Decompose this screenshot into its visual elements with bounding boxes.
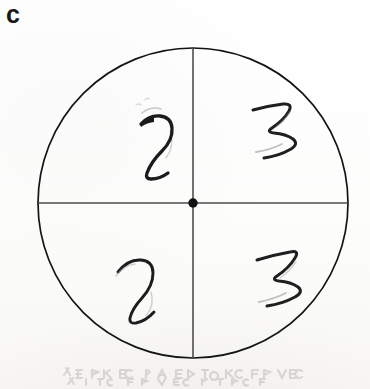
- mark-upper-left: [136, 98, 172, 179]
- figure-panel-c: c: [0, 0, 370, 389]
- center-dot: [188, 198, 197, 207]
- mark-lower-right: [257, 252, 300, 306]
- quadrant-circle-diagram: [0, 0, 370, 389]
- bleed-through-ghost-text: [64, 368, 302, 386]
- mark-lower-left: [116, 260, 154, 323]
- mark-upper-right: [253, 104, 296, 158]
